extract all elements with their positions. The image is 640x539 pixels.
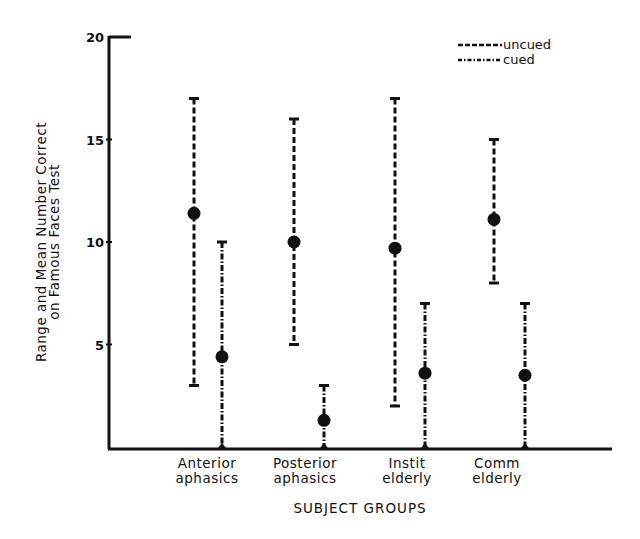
x-tick: [511, 443, 519, 448]
y-axis-title: Range and Mean Number Correcton Famous F…: [33, 122, 62, 362]
x-category-label: Anterioraphasics: [176, 455, 239, 486]
x-category-label: Commelderly: [472, 455, 522, 486]
range-bar-cued: [519, 304, 532, 449]
legend-label-cued: cued: [503, 52, 535, 67]
y-tick-label: 10: [86, 235, 104, 250]
y-axis-title-line: on Famous Faces Test: [46, 164, 62, 320]
x-category-label-line: Posterior: [273, 455, 337, 471]
x-category-label-line: elderly: [472, 470, 522, 486]
y-tick-label: 20: [86, 30, 104, 45]
x-axis-title: SUBJECT GROUPS: [293, 500, 426, 516]
range-bars: [188, 99, 532, 449]
legend-label-uncued: uncued: [503, 37, 551, 52]
mean-dot: [419, 367, 432, 380]
famous-faces-chart: Range and Mean Number Correcton Famous F…: [0, 0, 640, 539]
x-category-label: Institelderly: [382, 455, 432, 486]
mean-dot: [188, 207, 201, 220]
mean-dot: [318, 414, 331, 427]
x-category-label: Posterioraphasics: [273, 455, 337, 486]
mean-dot: [216, 350, 229, 363]
x-category-label-line: Instit: [389, 455, 426, 471]
x-category-label-line: aphasics: [176, 470, 239, 486]
x-category-label-line: Comm: [474, 455, 520, 471]
range-bar-uncued: [288, 119, 301, 345]
mean-dot: [519, 369, 532, 382]
mean-dot: [288, 236, 301, 249]
range-bar-uncued: [188, 99, 201, 386]
mean-dot: [488, 213, 501, 226]
range-bar-cued: [216, 242, 229, 448]
mean-dot: [389, 242, 402, 255]
x-category-label-line: Anterior: [178, 455, 237, 471]
min-marker: [320, 443, 328, 448]
y-tick-label: 5: [95, 338, 104, 353]
min-marker: [421, 443, 429, 448]
range-bar-uncued: [389, 99, 402, 407]
min-marker: [521, 443, 529, 448]
y-tick-label: 15: [86, 133, 104, 148]
x-category-label-line: elderly: [382, 470, 432, 486]
legend: uncuedcued: [458, 37, 551, 67]
range-bar-cued: [318, 386, 331, 449]
range-bar-cued: [419, 304, 432, 449]
x-category-label-line: aphasics: [274, 470, 337, 486]
min-marker: [218, 443, 226, 448]
axes: [108, 36, 612, 449]
range-bar-uncued: [488, 140, 501, 284]
